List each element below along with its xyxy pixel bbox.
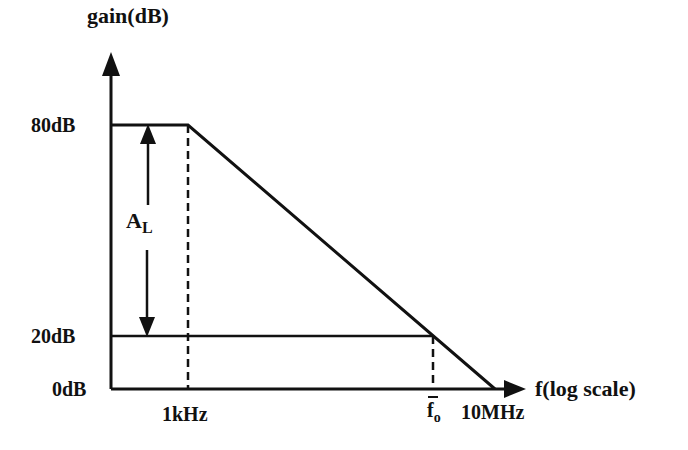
al-arrow-down-icon xyxy=(139,317,155,337)
tick-1khz: 1kHz xyxy=(162,404,208,424)
fo-main: f xyxy=(427,399,434,421)
gain-curve xyxy=(111,125,495,389)
tick-0db: 0dB xyxy=(52,379,86,399)
y-axis-label: gain(dB) xyxy=(87,5,169,27)
al-label: AL xyxy=(126,210,153,236)
al-sub: L xyxy=(142,219,153,236)
tick-20db: 20dB xyxy=(31,326,75,346)
fo-sub: o xyxy=(434,410,441,425)
tick-10mhz: 10MHz xyxy=(461,402,524,422)
tick-80db: 80dB xyxy=(31,115,75,135)
al-arrow-up-icon xyxy=(140,124,156,144)
tick-fo: fo xyxy=(427,400,441,425)
x-axis-arrow-icon xyxy=(504,380,526,398)
al-main: A xyxy=(126,208,142,233)
y-axis-arrow-icon xyxy=(102,52,120,76)
x-axis-label: f(log scale) xyxy=(535,378,636,400)
